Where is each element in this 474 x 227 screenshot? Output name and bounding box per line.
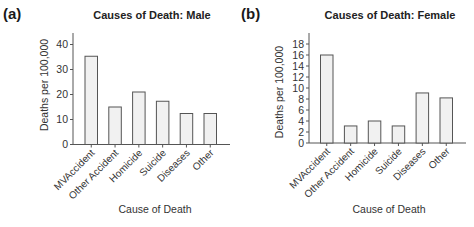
bar-suicide bbox=[156, 101, 169, 144]
y-tick-label: 18 bbox=[292, 38, 304, 50]
bar-mvaccident bbox=[85, 56, 98, 144]
chart-title: Causes of Death: Female bbox=[325, 9, 456, 21]
y-tick-label: 4 bbox=[298, 115, 304, 127]
panel-label: (b) bbox=[241, 5, 260, 22]
y-tick-label: 2 bbox=[298, 126, 304, 138]
bar-homicide bbox=[368, 121, 381, 143]
chart-panel-male: (a)Causes of Death: Male010203040MVAccid… bbox=[3, 5, 230, 215]
bar-other bbox=[440, 98, 453, 143]
x-axis-title: Cause of Death bbox=[119, 203, 192, 215]
y-tick-label: 30 bbox=[56, 63, 68, 75]
y-tick-label: 8 bbox=[298, 93, 304, 105]
y-tick-label: 10 bbox=[292, 82, 304, 94]
panel-label: (a) bbox=[3, 5, 21, 22]
x-category-label: Other bbox=[190, 147, 216, 173]
y-tick-label: 0 bbox=[298, 137, 304, 149]
x-axis-title: Cause of Death bbox=[353, 203, 426, 215]
x-category-label: Other bbox=[426, 145, 452, 171]
bar-mvaccident bbox=[321, 55, 334, 143]
y-tick-label: 6 bbox=[298, 104, 304, 116]
chart-title: Causes of Death: Male bbox=[93, 9, 210, 21]
bar-diseases bbox=[180, 114, 193, 145]
bar-homicide bbox=[133, 92, 146, 145]
y-tick-label: 14 bbox=[292, 60, 304, 72]
bar-other-accident bbox=[109, 107, 122, 145]
y-tick-label: 16 bbox=[292, 49, 304, 61]
bar-other bbox=[204, 114, 217, 145]
y-tick-label: 20 bbox=[56, 88, 68, 100]
y-tick-label: 40 bbox=[56, 38, 68, 50]
y-axis-title: Deaths per 100,000 bbox=[38, 39, 50, 131]
bar-charts-figure: (a)Causes of Death: Male010203040MVAccid… bbox=[0, 0, 474, 227]
figure: (a)Causes of Death: Male010203040MVAccid… bbox=[0, 0, 474, 227]
y-axis-title: Deaths per 100,000 bbox=[273, 46, 285, 138]
chart-panel-female: (b)Causes of Death: Female02468101214161… bbox=[241, 5, 466, 215]
y-tick-label: 12 bbox=[292, 71, 304, 83]
y-tick-label: 10 bbox=[56, 113, 68, 125]
bar-diseases bbox=[416, 93, 429, 143]
bar-other-accident bbox=[344, 126, 357, 143]
y-tick-label: 0 bbox=[62, 138, 68, 150]
bar-suicide bbox=[392, 126, 405, 143]
